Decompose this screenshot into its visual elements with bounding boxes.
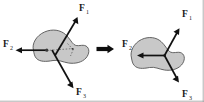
force-label-f1-right-sub: 1 — [189, 15, 192, 21]
force-label-f1-left: F 1 — [79, 3, 89, 15]
force-arrowhead-f1-left — [72, 17, 78, 24]
center-dot-left — [72, 48, 74, 50]
force-arrowhead-f2-left — [16, 47, 23, 53]
force-label-f2-left-text: F — [3, 39, 9, 49]
force-label-f3-left-sub: 3 — [83, 93, 86, 99]
rigid-body-blob-right — [131, 38, 184, 71]
force-label-f1-left-sub: 1 — [86, 9, 89, 15]
transition-arrowhead — [108, 45, 115, 53]
application-point-f2-left — [45, 49, 48, 52]
force-label-f2-left: F 2 — [3, 39, 13, 51]
force-arrow-f1-right — [165, 28, 180, 55]
diagram-canvas: F 1 F 2 F 3 — [0, 0, 204, 102]
force-label-f1-right-text: F — [182, 9, 188, 19]
force-label-f3-right: F 3 — [182, 89, 192, 101]
force-label-f2-right-sub: 2 — [129, 45, 132, 51]
force-label-f1-right: F 1 — [182, 9, 192, 21]
transition-arrow-group — [97, 45, 115, 53]
force-label-f1-left-text: F — [79, 3, 85, 13]
force-label-f3-right-sub: 3 — [189, 95, 192, 101]
force-label-f3-right-text: F — [182, 89, 188, 99]
force-label-f2-left-sub: 2 — [10, 45, 13, 51]
left-diagram-group: F 1 F 2 F 3 — [3, 3, 89, 99]
right-diagram-group: F 1 F 2 F 3 — [122, 9, 192, 101]
force-label-f2-right-text: F — [122, 39, 128, 49]
force-label-f3-left-text: F — [76, 87, 82, 97]
physics-force-diagram: F 1 F 2 F 3 — [0, 0, 204, 102]
force-label-f3-left: F 3 — [76, 87, 86, 99]
force-label-f2-right: F 2 — [122, 39, 132, 51]
